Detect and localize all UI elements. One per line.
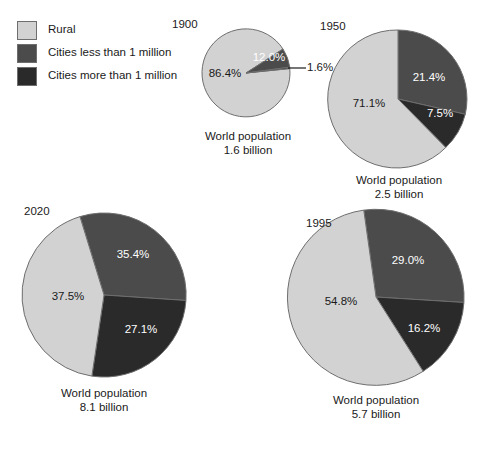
pie-1950-label-rural: 71.1% bbox=[353, 97, 386, 109]
legend-label-rural: Rural bbox=[48, 24, 75, 36]
pie-1900-label-rural: 86.4% bbox=[209, 67, 242, 79]
pie-2020-svg: 35.4% 27.1% 37.5% bbox=[21, 196, 189, 364]
pie-1950-label-cities-more-than-1-million: 7.5% bbox=[427, 107, 453, 119]
pie-chart-1995: 29.0% 16.2% 54.8% 1995 World population … bbox=[287, 208, 467, 388]
pie-1900-label-cities-less-than-1-million: 12.0% bbox=[253, 51, 286, 63]
legend: Rural Cities less than 1 million Cities … bbox=[17, 19, 177, 88]
pie-1950-svg: 21.4% 7.5% 71.1% bbox=[328, 29, 470, 171]
legend-swatch-cities-less-than-1-million bbox=[17, 44, 37, 63]
pie-1950-year: 1950 bbox=[320, 21, 346, 33]
pie-1995-caption: World population 5.7 billion bbox=[302, 394, 450, 421]
pie-1900-caption-line2: 1.6 billion bbox=[174, 144, 322, 158]
pie-2020-label-rural: 37.5% bbox=[52, 290, 85, 302]
pie-1995-label-rural: 54.8% bbox=[325, 295, 358, 307]
pie-1995-caption-line1: World population bbox=[302, 394, 450, 408]
pie-1950-label-cities-less-than-1-million: 21.4% bbox=[413, 71, 446, 83]
pie-2020-label-cities-less-than-1-million: 35.4% bbox=[117, 248, 150, 260]
pie-2020-slice-cities-more-than-1-million bbox=[92, 295, 186, 377]
pie-1995-caption-line2: 5.7 billion bbox=[302, 408, 450, 422]
pie-1995-svg: 29.0% 16.2% 54.8% bbox=[287, 208, 467, 388]
pie-chart-1950: 21.4% 7.5% 71.1% 1950 World population 2… bbox=[328, 29, 470, 171]
pie-1995-label-cities-less-than-1-million: 29.0% bbox=[392, 254, 425, 266]
pie-2020-year: 2020 bbox=[24, 206, 50, 218]
pie-1995-year: 1995 bbox=[306, 218, 332, 230]
legend-label-cities-less-than-1-million: Cities less than 1 million bbox=[48, 47, 171, 59]
pie-chart-1900: 86.4% 12.0% 1900 1.6% World population 1… bbox=[200, 26, 296, 122]
pie-chart-2020: 35.4% 27.1% 37.5% 2020 World population … bbox=[21, 196, 189, 364]
legend-item-cities-less-than-1-million: Cities less than 1 million bbox=[17, 42, 177, 64]
pie-1900-year: 1900 bbox=[172, 19, 198, 31]
pie-1950-caption-line1: World population bbox=[325, 174, 473, 188]
legend-swatch-rural bbox=[17, 21, 37, 40]
legend-item-rural: Rural bbox=[17, 19, 177, 41]
pie-1900-caption-line1: World population bbox=[174, 130, 322, 144]
pie-2020-caption-line1: World population bbox=[30, 387, 178, 401]
pie-1900-svg: 86.4% 12.0% bbox=[200, 26, 296, 122]
pie-2020-caption-line2: 8.1 billion bbox=[30, 401, 178, 415]
pie-1995-label-cities-more-than-1-million: 16.2% bbox=[408, 322, 441, 334]
legend-item-cities-more-than-1-million: Cities more than 1 million bbox=[17, 65, 177, 87]
legend-swatch-cities-more-than-1-million bbox=[17, 67, 37, 86]
legend-label-cities-more-than-1-million: Cities more than 1 million bbox=[48, 70, 177, 82]
world-urbanization-pie-figure: Rural Cities less than 1 million Cities … bbox=[0, 0, 486, 455]
pie-2020-caption: World population 8.1 billion bbox=[30, 387, 178, 414]
pie-1950-caption: World population 2.5 billion bbox=[325, 174, 473, 201]
pie-1950-caption-line2: 2.5 billion bbox=[325, 188, 473, 202]
pie-2020-label-cities-more-than-1-million: 27.1% bbox=[125, 323, 158, 335]
pie-1900-caption: World population 1.6 billion bbox=[174, 130, 322, 157]
